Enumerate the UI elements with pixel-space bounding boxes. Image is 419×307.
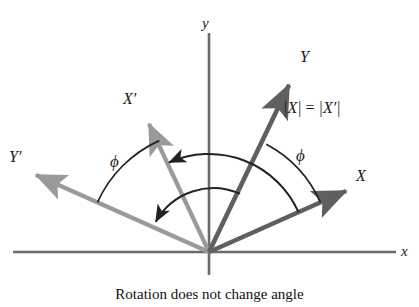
x-axis-label: x <box>401 244 408 259</box>
phi-left-arc <box>98 141 160 203</box>
vector-label-Y: Y <box>300 49 309 65</box>
vector-x <box>209 191 346 252</box>
rotation-angle-figure: y x Y X X′ Y′ |X| = |X′| ϕ ϕ Rotation do… <box>0 0 419 307</box>
y-axis-label: y <box>202 16 209 31</box>
vector-label-X: X <box>356 168 366 184</box>
vector-label-X-prime: X′ <box>123 91 136 107</box>
magnitude-left: |X| <box>283 99 302 116</box>
magnitude-equality-label: |X| = |X′| <box>283 100 341 116</box>
vector-y-prime <box>36 175 209 252</box>
magnitude-right: |X′| <box>319 99 341 116</box>
diagram-canvas <box>0 0 419 307</box>
phi-label-right: ϕ <box>296 147 305 164</box>
figure-caption: Rotation does not change angle <box>0 286 419 303</box>
primed-vectors-group <box>36 124 209 252</box>
vector-y <box>209 85 289 252</box>
vector-x-prime <box>149 124 209 252</box>
vector-label-Y-prime: Y′ <box>9 149 21 165</box>
phi-right-arc <box>266 144 320 202</box>
magnitude-operator: = <box>302 99 319 116</box>
phi-label-left: ϕ <box>110 153 119 170</box>
